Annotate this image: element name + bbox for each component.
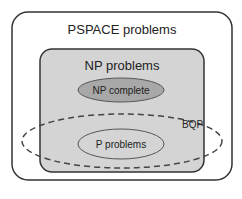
complexity-diagram: PSPACE problems NP problems NP complete … bbox=[0, 0, 242, 199]
pspace-label: PSPACE problems bbox=[68, 22, 177, 37]
np-complete-label: NP complete bbox=[92, 85, 150, 96]
bqp-label: BQP bbox=[182, 119, 203, 130]
np-label: NP problems bbox=[85, 58, 160, 73]
p-label: P problems bbox=[96, 139, 146, 150]
